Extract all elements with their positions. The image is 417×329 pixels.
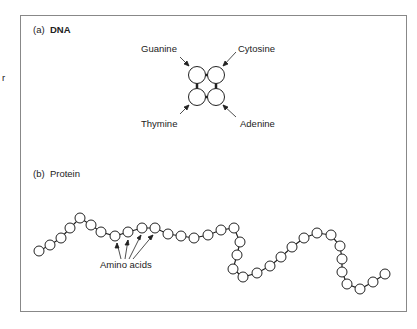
amino-acid-bead: [216, 225, 226, 235]
amino-acid-bead: [299, 233, 309, 243]
amino-acid-bead: [189, 233, 199, 243]
amino-acid-bead: [326, 230, 336, 240]
diagram-canvas: [0, 0, 417, 329]
amino-acid-bead: [335, 241, 345, 251]
amino-acid-bead: [238, 272, 248, 282]
amino-acid-bead: [265, 261, 275, 271]
amino-acid-bead: [232, 250, 242, 260]
dna-arrows: [180, 52, 236, 117]
amino-acid-bead: [355, 284, 365, 294]
amino-acid-bead: [337, 267, 347, 277]
guanine-base: [189, 67, 206, 84]
protein-chain: [34, 213, 390, 294]
amino-acid-bead: [368, 277, 378, 287]
amino-acid-bead: [96, 227, 106, 237]
amino-acid-bead: [86, 220, 96, 230]
figure-frame: [21, 16, 407, 312]
amino-acid-bead: [137, 223, 147, 233]
amino-acid-bead: [75, 213, 85, 223]
amino-acids-label: Amino acids: [100, 259, 152, 270]
amino-acid-bead: [110, 231, 120, 241]
panel-a-label: (a) DNA: [33, 24, 71, 35]
guanine-label: Guanine: [141, 43, 177, 54]
panel-a-title: DNA: [50, 24, 71, 35]
dna-structure: [189, 67, 225, 106]
amino-acid-bead: [123, 227, 133, 237]
amino-acid-bead: [163, 229, 173, 239]
amino-acid-bead: [34, 246, 44, 256]
amino-acid-bead: [65, 223, 75, 233]
amino-acid-bead: [380, 269, 390, 279]
amino-acid-bead: [150, 223, 160, 233]
amino-acid-bead: [45, 240, 55, 250]
amino-acid-bead: [229, 223, 239, 233]
panel-b-label: (b) Protein: [33, 168, 80, 179]
amino-acid-bead: [287, 242, 297, 252]
amino-acid-bead: [312, 228, 322, 238]
thymine-label: Thymine: [141, 118, 177, 129]
cytosine-base: [208, 67, 225, 84]
cytosine-label: Cytosine: [238, 43, 275, 54]
amino-acid-bead: [203, 230, 213, 240]
amino-acid-bead: [252, 268, 262, 278]
amino-acid-bead: [276, 252, 286, 262]
adenine-base: [208, 89, 225, 106]
adenine-label: Adenine: [240, 118, 275, 129]
amino-acid-bead: [176, 231, 186, 241]
amino-acid-bead: [235, 237, 245, 247]
amino-acid-bead: [228, 264, 238, 274]
amino-acid-bead: [56, 233, 66, 243]
amino-acid-bead: [337, 254, 347, 264]
panel-b-title: Protein: [50, 168, 80, 179]
thymine-base: [189, 89, 206, 106]
amino-acid-arrows: [115, 235, 153, 259]
amino-acid-bead: [342, 279, 352, 289]
